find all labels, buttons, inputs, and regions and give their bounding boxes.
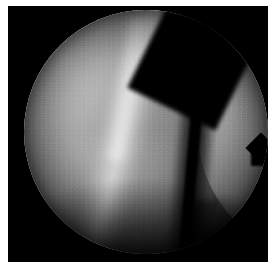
endoscope-field-of-view [24,10,268,254]
image-viewer: Grayscale arthroscopic view of a joint: … [0,0,276,273]
film-frame [8,6,268,262]
film-grain-overlay-secondary [24,10,268,254]
